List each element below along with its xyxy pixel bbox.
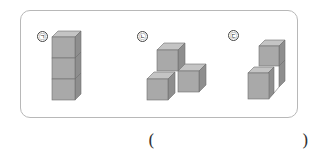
answer-open-paren: ( — [148, 130, 155, 150]
cube-figure-b — [143, 42, 209, 104]
label-a: ㉠ — [37, 31, 48, 42]
label-b: ㉡ — [137, 31, 148, 42]
answer-blank[interactable] — [160, 130, 300, 150]
cube-figure-a — [50, 30, 84, 105]
answer-close-paren: ) — [302, 130, 309, 150]
label-c: ㉢ — [228, 30, 239, 41]
cube-figure-c — [245, 39, 289, 103]
